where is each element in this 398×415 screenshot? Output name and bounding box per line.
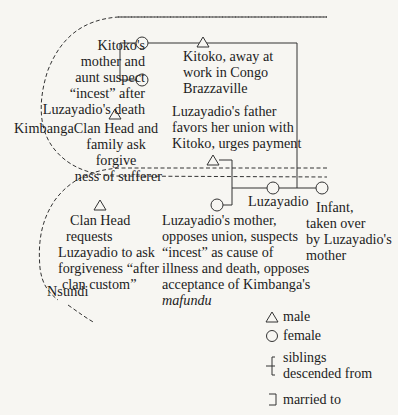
nsundi-boundary-tail (68, 305, 95, 323)
node-text-nsundi-clan-head: Clan Head requests Luzayadio to ask forg… (58, 212, 159, 292)
female-infant-icon (316, 182, 328, 194)
node-text-infant: Infant, taken over by Luzayadio's mother (306, 199, 392, 263)
legend-item-siblings: siblings descended from (283, 350, 372, 382)
node-text-kitoko: Kitoko, away at work in Congo Brazzavill… (183, 48, 273, 96)
legend-item-married: married to (283, 392, 341, 408)
male-luzayadio-father-icon (207, 155, 219, 165)
legend-item-male: male (283, 309, 310, 325)
legend-item-female: female (283, 328, 321, 344)
node-text-luzayadio-father: Luzayadio's father favors her union with… (172, 103, 301, 151)
node-text-kitoko-mother-aunt: Kitoko's mother and aunt suspect “incest… (43, 37, 145, 117)
group-label-kimbanga: Kimbanga (14, 120, 74, 136)
marriage-bracket-luzayadio-parents (219, 160, 232, 205)
node-text-luzayadio-mother: Luzayadio's mother, opposes union, suspe… (162, 212, 310, 308)
male-kitoko-icon (197, 37, 209, 47)
legend-triangle-icon (266, 312, 278, 322)
term-mafundu: mafundu (162, 292, 310, 308)
node-label-luzayadio: Luzayadio (248, 193, 309, 209)
legend-sibling-bracket-icon (266, 357, 275, 375)
female-luzayadio-mother-icon (211, 199, 223, 211)
legend-circle-icon (267, 331, 278, 342)
legend-marriage-bracket-icon (269, 394, 276, 405)
node-text-kimbanga-clan-head: Clan Head and family ask forgive ness of… (70, 120, 162, 184)
male-nsundi-clan-head-icon (94, 200, 106, 210)
